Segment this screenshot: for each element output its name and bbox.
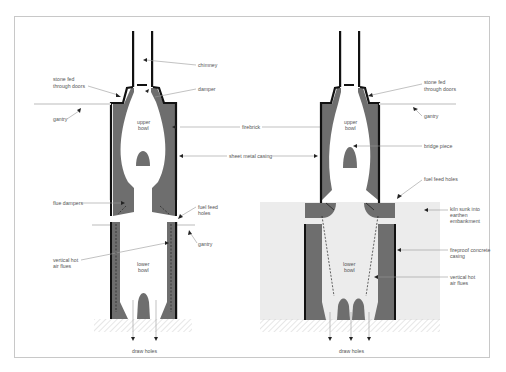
arrowhead [353,144,357,148]
firebrick-lower-right [160,222,175,319]
arrowhead [178,214,183,219]
label-stone-fed-2: through doors [53,83,85,89]
bridge-piece-left [136,151,150,166]
lower-center-cone-left [137,293,150,319]
label-upper-bowl-2-r: bowl [345,125,356,131]
label-fireproof-2: casing [450,253,465,259]
label-flue-dampers: flue dampers [53,200,83,206]
arrowhead [413,107,418,111]
damper-r [344,84,354,86]
label-draw-holes-left: draw holes [132,348,157,354]
chimney-wall-right [151,31,153,87]
casing-mid-left [110,200,112,216]
left-kiln: chimney stone fed through doors damper g… [34,31,218,354]
label-stone-fed-1: stone fed [53,76,74,82]
label-chimney: chimney [198,62,218,68]
leader [88,86,118,95]
casing-lower-right [175,222,177,319]
gantry-mid-right-bar [177,224,195,226]
label-upper-bowl-2: bowl [138,125,149,131]
gantry-right-bar [379,103,456,105]
leader [191,234,197,243]
firebrick-mid-right [152,200,175,216]
arrowhead [367,337,371,341]
gantry-top-left-bar [34,103,111,105]
fireproof-casing-left [304,224,306,320]
label-damper: damper [198,86,216,92]
label-sheet-metal-casing: sheet metal casing [229,153,272,159]
arrowhead [116,93,121,97]
leader [400,180,422,196]
shared-labels: firebrick sheet metal casing [172,124,328,159]
bridge-piece [343,147,357,168]
arrowhead [131,337,135,341]
arrowhead [314,154,318,158]
firebrick-upper-left [113,88,134,200]
ground-hatch-left [94,319,192,332]
gantry-mid-left-bar [92,224,110,226]
label-gantry-r: gantry [424,113,439,119]
label-stone-fed-1-r: stone fed [424,79,445,85]
label-lower-bowl-2-r: bowl [344,267,355,273]
fuel-feed-hole-left-2 [172,216,177,220]
arrowhead [349,337,353,341]
arrowhead [145,89,149,93]
casing-lower-left [110,222,112,319]
firebrick-upper-right [151,88,175,200]
leader [181,207,196,216]
label-firebrick: firebrick [242,124,261,130]
label-draw-holes-right: draw holes [339,348,364,354]
label-bridge-piece: bridge piece [424,143,452,149]
leader [416,110,422,116]
firebrick-upper-right-r [358,88,378,200]
chimney-wall-right-r [358,31,360,87]
label-fuel-feed-2: holes [198,210,211,216]
label-stone-fed-2-r: through doors [424,86,456,92]
label-vertical-flues-2-r: air flues [450,280,469,286]
arrowhead [143,58,147,62]
label-gantry-mid: gantry [198,241,213,247]
right-kiln: stone fed through doors gantry upper bow… [260,31,490,354]
arrowhead [328,337,332,341]
chimney-wall-left [132,31,134,87]
damper [137,84,147,86]
casing-mid-right [175,200,177,216]
label-gantry-top: gantry [53,116,68,122]
leader [146,60,196,65]
label-kiln-sunk-3: embankment [450,218,481,224]
leader [67,111,79,119]
arrowhead [154,337,158,341]
label-fuel-feed-holes-r: fuel feed holes [424,176,458,182]
fireproof-casing-right [394,224,396,320]
firebrick-upper-left-r [322,88,341,200]
firebrick-lower-left [112,222,128,319]
chimney-wall-left-r [339,31,341,87]
arrowhead [179,154,183,158]
leader [81,243,166,260]
kiln-cross-section-diagram: chimney stone fed through doors damper g… [0,0,506,372]
leader [372,84,422,95]
label-vertical-flues-2: air flues [53,263,72,269]
label-lower-bowl-2: bowl [138,267,149,273]
fuel-feed-hole-left-1 [111,216,116,220]
ground-hatch-right [260,319,440,332]
arrowhead [368,93,373,97]
